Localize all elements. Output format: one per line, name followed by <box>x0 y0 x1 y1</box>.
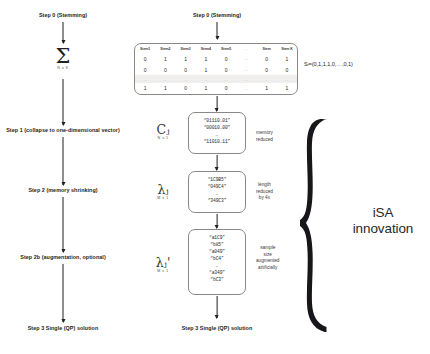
lambda-j-dimension-label: M x 1 <box>157 197 168 201</box>
left-arrow-step2b-to-step3 <box>63 264 64 322</box>
table-row: 0 0 0 1 0 ... 0 0 <box>135 64 297 75</box>
list-item: “349C3” <box>189 198 245 205</box>
matrix-cell: 1 <box>257 83 277 94</box>
matrix-cell: 0 <box>216 53 236 64</box>
left-step-1-label: Step 1 (collapse to one-dimensional vect… <box>6 128 120 133</box>
list-item: “00010…00” <box>189 125 245 132</box>
sigma-dimension-label: N x K <box>56 67 71 71</box>
matrix-cell: 0 <box>257 64 277 75</box>
list-item-ellipsis: … <box>189 263 245 270</box>
note-line: artificially <box>256 265 279 272</box>
matrix-cell: 0 <box>257 53 277 64</box>
matrix-header-ellipsis: ... <box>236 44 256 53</box>
note-line: length <box>256 182 273 189</box>
matrix-cell: 0 <box>135 64 155 75</box>
stem-matrix-table: Stem1 Stem2 Stem3 Stem4 Stem5 ... Stem S… <box>135 44 297 94</box>
right-arrow-lambda-to-lambda-prime <box>217 214 218 228</box>
sigma-symbol-group: Σ N x K <box>56 47 71 71</box>
matrix-cell: 0 <box>216 83 236 94</box>
lambda-j-prime-dimension-label: M x 1 <box>156 270 171 274</box>
matrix-cell: 1 <box>196 64 216 75</box>
isa-line-2: innovation <box>340 221 426 237</box>
matrix-cell: 0 <box>216 64 236 75</box>
length-reduced-note: length reduced by 4x <box>256 182 273 202</box>
cj-glyph: Cⱼ <box>157 124 170 137</box>
list-item-ellipsis: … <box>189 191 245 198</box>
memory-reduced-note: memory reduced <box>256 130 273 143</box>
matrix-cell: ... <box>236 75 256 83</box>
matrix-cell: 1 <box>135 83 155 94</box>
matrix-cell: 1 <box>176 53 196 64</box>
right-arrow-matrix-to-cj <box>217 96 218 111</box>
cj-dimension-label: N x 1 <box>157 137 170 141</box>
matrix-cell: ... <box>155 75 175 83</box>
lambda-j-prime-strings-list: “a1C9” “b85” “a049” “bC4” … “a349” “bC3” <box>189 235 245 284</box>
matrix-cell: ... <box>176 75 196 83</box>
table-row-separator: ... ... ... ... ... ... ... ... <box>135 75 297 83</box>
table-row: 1 1 0 1 0 ... 1 1 <box>135 83 297 94</box>
left-arrow-sigma-to-step1 <box>63 79 64 125</box>
list-item: “1C9B5” <box>189 177 245 184</box>
cj-symbol-group: Cⱼ N x 1 <box>157 124 170 141</box>
right-step-3-label: Step 3 Single (QP) solution <box>182 326 253 331</box>
matrix-header-cell: Stem4 <box>196 44 216 53</box>
matrix-cell: 1 <box>155 83 175 94</box>
right-arrow-cj-to-lambda <box>217 155 218 170</box>
sample-augmented-note: sample size augmented artificially <box>256 245 279 272</box>
isa-line-1: iSA <box>340 205 426 221</box>
matrix-cell: 1 <box>196 53 216 64</box>
list-item: “11010…11” <box>189 139 245 146</box>
matrix-cell: 1 <box>277 83 297 94</box>
left-arrow-step1-to-step2 <box>63 137 64 185</box>
matrix-header-cell: Stem3 <box>176 44 196 53</box>
matrix-cell: 0 <box>176 64 196 75</box>
matrix-cell: ... <box>135 75 155 83</box>
matrix-cell: ... <box>216 75 236 83</box>
left-step-2-label: Step 2 (memory shrinking) <box>28 188 97 193</box>
list-item: “a349” <box>189 270 245 277</box>
right-step-0-label: Step 0 (Stemming) <box>193 13 241 18</box>
right-arrow-to-matrix <box>217 22 218 39</box>
matrix-cell-ellipsis: ... <box>236 64 256 75</box>
si-vector-label: Sᵢ=(0,1,1,1,0,…,0,1) <box>304 61 353 67</box>
list-item: “bC4” <box>189 256 245 263</box>
left-arrow-0-to-sigma <box>63 22 64 43</box>
matrix-cell: 1 <box>196 83 216 94</box>
list-item: “b85” <box>189 242 245 249</box>
left-arrow-step2-to-step2b <box>63 197 64 252</box>
left-step-0-label: Step 0 (Stemming) <box>39 13 87 18</box>
lambda-j-strings-list: “1C9B5” “049C4” … “349C3” <box>189 177 245 205</box>
matrix-header-cell: Stem1 <box>135 44 155 53</box>
diagram-canvas: Step 0 (Stemming) Σ N x K Step 1 (collap… <box>0 0 430 354</box>
matrix-header-cell: Stem5 <box>216 44 236 53</box>
matrix-header-cell: Stem <box>257 44 277 53</box>
note-line: sample <box>256 245 279 252</box>
list-item: “a1C9” <box>189 235 245 242</box>
lambda-j-glyph: λⱼ <box>157 184 168 197</box>
matrix-cell-ellipsis: ... <box>236 83 256 94</box>
table-row: 0 1 1 1 0 ... 0 1 <box>135 53 297 64</box>
list-item-ellipsis: … <box>189 132 245 139</box>
lambda-j-prime-glyph: λⱼ' <box>156 257 171 270</box>
lambda-j-prime-symbol-group: λⱼ' M x 1 <box>156 257 171 274</box>
matrix-cell: ... <box>196 75 216 83</box>
note-line: reduced <box>256 189 273 196</box>
note-line: size <box>256 252 279 259</box>
lambda-j-symbol-group: λⱼ M x 1 <box>157 184 168 201</box>
matrix-cell: 0 <box>277 64 297 75</box>
matrix-cell: 1 <box>277 53 297 64</box>
matrix-cell: ... <box>257 75 277 83</box>
lambda-j-prime-strings-box: “a1C9” “b85” “a049” “bC4” … “a349” “bC3” <box>188 229 246 295</box>
lambda-j-strings-box: “1C9B5” “049C4” … “349C3” <box>188 171 246 213</box>
matrix-cell: 1 <box>155 53 175 64</box>
left-step-2b-label: Step 2b (augmentation, optional) <box>20 255 105 260</box>
list-item: “a049” <box>189 249 245 256</box>
matrix-cell: 0 <box>155 64 175 75</box>
matrix-cell-ellipsis: ... <box>236 53 256 64</box>
list-item: “049C4” <box>189 184 245 191</box>
cj-strings-box: “01110…01” “00010…00” … “11010…11” <box>188 112 246 154</box>
list-item: “bC3” <box>189 277 245 284</box>
note-line: reduced <box>256 137 273 144</box>
matrix-cell: 0 <box>135 53 155 64</box>
note-line: augmented <box>256 258 279 265</box>
